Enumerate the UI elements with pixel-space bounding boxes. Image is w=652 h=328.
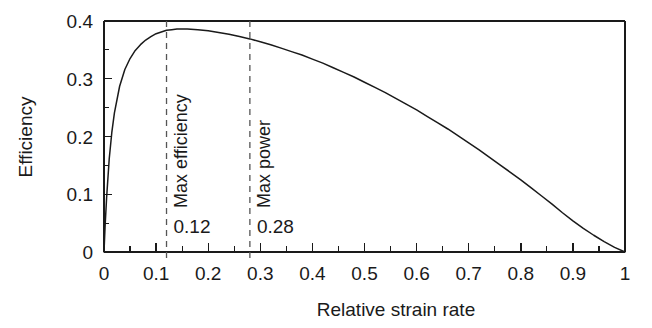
annotation-label-max-efficiency: Max efficiency bbox=[171, 94, 191, 208]
annotation-value-max-power: 0.28 bbox=[257, 216, 294, 237]
y-tick-label: 0.1 bbox=[67, 184, 93, 205]
x-tick-label: 0.8 bbox=[508, 263, 534, 284]
x-tick-label: 0.3 bbox=[247, 263, 273, 284]
x-tick-label: 0.1 bbox=[143, 263, 169, 284]
y-axis-title: Efficiency bbox=[15, 96, 36, 177]
chart-canvas: 00.10.20.30.4 00.10.20.30.40.50.60.70.80… bbox=[0, 0, 652, 328]
annotation-label-max-power: Max power bbox=[254, 120, 274, 208]
x-tick-label: 0.7 bbox=[455, 263, 481, 284]
x-tick-label: 0.9 bbox=[560, 263, 586, 284]
x-tick-label: 0.5 bbox=[351, 263, 377, 284]
x-tick-label: 1 bbox=[620, 263, 631, 284]
annotation-labels: Max efficiency0.12Max power0.28 bbox=[171, 94, 294, 237]
x-tick-label: 0 bbox=[99, 263, 110, 284]
y-axis-tick-labels: 00.10.20.30.4 bbox=[67, 11, 94, 263]
x-tick-label: 0.2 bbox=[195, 263, 221, 284]
efficiency-vs-strain-rate-chart: 00.10.20.30.4 00.10.20.30.40.50.60.70.80… bbox=[0, 0, 652, 328]
y-tick-label: 0 bbox=[82, 242, 93, 263]
x-axis-tick-labels: 00.10.20.30.40.50.60.70.80.91 bbox=[99, 263, 631, 284]
x-axis-ticks bbox=[104, 243, 625, 252]
annotation-value-max-efficiency: 0.12 bbox=[174, 216, 211, 237]
y-tick-label: 0.2 bbox=[67, 127, 93, 148]
x-tick-label: 0.6 bbox=[403, 263, 429, 284]
x-tick-label: 0.4 bbox=[299, 263, 326, 284]
y-tick-label: 0.3 bbox=[67, 69, 93, 90]
y-tick-label: 0.4 bbox=[67, 11, 94, 32]
x-axis-title: Relative strain rate bbox=[317, 299, 475, 320]
